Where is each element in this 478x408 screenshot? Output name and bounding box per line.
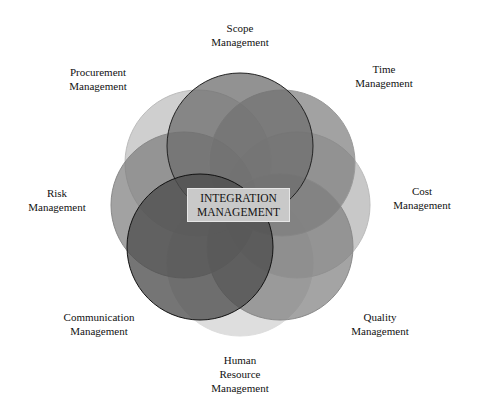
label-communication-line1: Communication [64, 310, 135, 324]
label-risk: RiskManagement [28, 186, 85, 214]
label-human-resource-line2: Resource [211, 367, 268, 381]
label-risk-line1: Risk [28, 186, 85, 200]
label-cost-line2: Management [393, 198, 450, 212]
label-scope: ScopeManagement [211, 21, 268, 49]
center-label-line2: MANAGEMENT [197, 205, 280, 219]
label-time-line2: Management [355, 76, 412, 90]
label-scope-line2: Management [211, 35, 268, 49]
label-communication-line2: Management [64, 324, 135, 338]
label-quality-line1: Quality [351, 310, 408, 324]
label-scope-line1: Scope [211, 21, 268, 35]
label-human-resource-line1: Human [211, 353, 268, 367]
label-procurement-line2: Management [69, 79, 126, 93]
label-procurement: ProcurementManagement [69, 65, 126, 93]
label-procurement-line1: Procurement [69, 65, 126, 79]
integration-management-box: INTEGRATION MANAGEMENT [187, 188, 290, 222]
integration-management-diagram: ScopeManagementTimeManagementCostManagem… [0, 0, 478, 408]
label-human-resource-line3: Management [211, 381, 268, 395]
label-communication: CommunicationManagement [64, 310, 135, 338]
label-time-line1: Time [355, 62, 412, 76]
label-quality-line2: Management [351, 324, 408, 338]
label-quality: QualityManagement [351, 310, 408, 338]
label-time: TimeManagement [355, 62, 412, 90]
label-cost-line1: Cost [393, 184, 450, 198]
center-label-line1: INTEGRATION [200, 191, 277, 205]
label-human-resource: HumanResourceManagement [211, 353, 268, 395]
label-cost: CostManagement [393, 184, 450, 212]
label-risk-line2: Management [28, 200, 85, 214]
